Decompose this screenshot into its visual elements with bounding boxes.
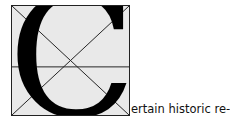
paragraph-text: ertain historic re-: [131, 104, 230, 116]
dropcap-figure: C: [11, 5, 130, 116]
dropcap-letter: C: [11, 5, 130, 116]
